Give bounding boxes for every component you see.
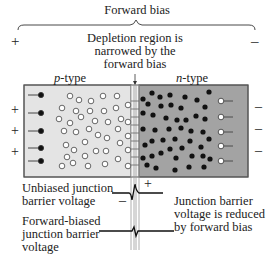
forward-biased-label: Forward-biased junction barrier voltage [22,215,100,254]
barrier-plus: + [144,176,152,192]
left-plus-3: + [11,144,19,160]
barrier-minus: – [119,193,126,209]
brace [18,20,255,30]
left-plus-2: + [11,123,19,139]
unbiased-line-2: barrier voltage [22,195,113,208]
forward-line-3: voltage [22,241,100,254]
reduced-barrier-label: Junction barrier voltage is reduced by f… [174,195,265,234]
junction-strip [131,85,139,177]
unbiased-label: Unbiased junction barrier voltage [22,182,113,208]
p-type-label: p-type [54,72,86,85]
n-type-label: n-type [176,72,208,85]
left-plus-1: + [11,102,19,118]
right-minus-2: – [255,121,262,137]
right-minus-3: – [255,143,262,159]
right-polarity-minus: – [251,33,259,50]
reduced-line-3: by forward bias [174,221,265,234]
depletion-callout: Depletion region is narrowed by the forw… [60,32,210,71]
forward-barrier-curve [99,227,174,236]
left-polarity-plus: + [11,33,19,50]
callout-line-3: forward bias [60,58,210,71]
right-minus-1: – [255,99,262,115]
